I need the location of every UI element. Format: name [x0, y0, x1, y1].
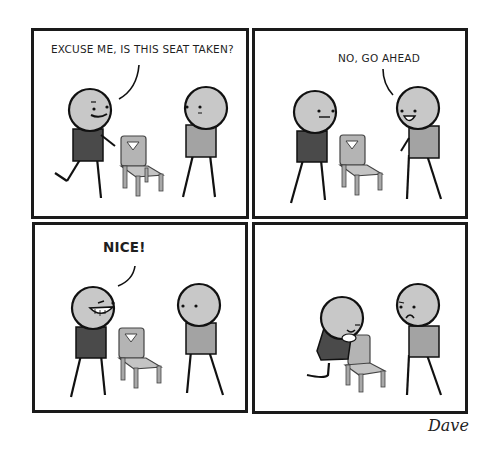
right-character: [397, 87, 441, 199]
right-character: [397, 284, 441, 395]
artist-signature: Dave: [428, 416, 469, 435]
chair: [345, 335, 385, 392]
panel-2: NO, GO AHEAD: [252, 28, 468, 219]
panel-4: [252, 222, 468, 414]
left-character: [291, 91, 336, 203]
comic-strip: EXCUSE ME, IS THIS SEAT TAKEN?: [0, 0, 492, 452]
left-character: [55, 89, 115, 198]
chair: [119, 328, 161, 388]
panel-1-art: [34, 31, 249, 219]
chair: [121, 136, 163, 196]
panel-3-art: [35, 225, 248, 413]
right-character: [183, 87, 227, 197]
panel-3: NICE!: [32, 222, 248, 413]
chair: [340, 135, 382, 195]
panel-4-art: [255, 225, 468, 414]
panel-1: EXCUSE ME, IS THIS SEAT TAKEN?: [31, 28, 249, 219]
left-character: [71, 287, 115, 397]
right-character: [178, 284, 223, 395]
panel-2-art: [255, 31, 468, 219]
